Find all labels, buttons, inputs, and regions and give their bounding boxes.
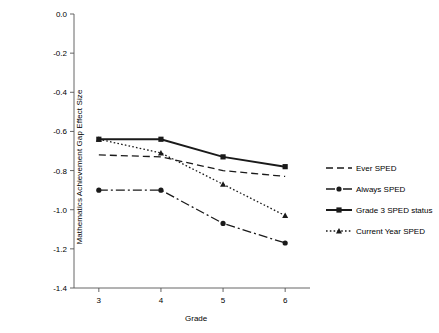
y-axis-tick-label: -1.0	[53, 206, 67, 215]
y-axis-tick-label: -0.6	[53, 127, 67, 136]
legend-item-4[interactable]: Current Year SPED	[326, 227, 425, 236]
data-marker	[336, 228, 342, 233]
y-axis-tick-label: -0.2	[53, 49, 67, 58]
series-1	[99, 155, 285, 177]
x-axis-tick-label: 4	[159, 296, 164, 305]
series-line	[99, 190, 285, 243]
chart-plot: 0.0-0.2-0.4-0.6-0.8-1.0-1.2-1.43456Ever …	[0, 0, 439, 333]
data-marker	[158, 188, 163, 193]
data-marker	[96, 188, 101, 193]
data-marker	[283, 240, 288, 245]
data-marker	[220, 221, 225, 226]
x-axis-tick-label: 6	[283, 296, 288, 305]
legend-item-3[interactable]: Grade 3 SPED status	[326, 206, 432, 215]
y-axis-tick-label: -1.4	[53, 284, 67, 293]
x-axis-tick-label: 3	[97, 296, 102, 305]
series-line	[99, 139, 285, 166]
data-marker	[220, 154, 225, 159]
legend-label: Grade 3 SPED status	[356, 206, 432, 215]
x-axis-title: Grade	[185, 314, 207, 323]
chart-container: Mathematics Achievement Gap Effect Size …	[0, 0, 439, 333]
data-marker	[283, 164, 288, 169]
series-2	[96, 188, 288, 246]
legend-label: Ever SPED	[356, 164, 397, 173]
data-marker	[220, 181, 226, 186]
y-axis-tick-label: -0.8	[53, 167, 67, 176]
y-axis-tick-label: 0.0	[56, 10, 68, 19]
legend-item-2[interactable]: Always SPED	[326, 185, 406, 194]
x-axis-tick-label: 5	[221, 296, 226, 305]
data-marker	[336, 207, 341, 212]
y-axis-tick-label: -0.4	[53, 88, 67, 97]
data-marker	[336, 186, 341, 191]
legend-label: Always SPED	[356, 185, 406, 194]
data-marker	[282, 213, 288, 218]
series-line	[99, 155, 285, 177]
legend-label: Current Year SPED	[356, 227, 425, 236]
series-line	[99, 139, 285, 215]
data-marker	[158, 137, 163, 142]
y-axis-tick-label: -1.2	[53, 245, 67, 254]
legend-item-1[interactable]: Ever SPED	[326, 164, 397, 173]
